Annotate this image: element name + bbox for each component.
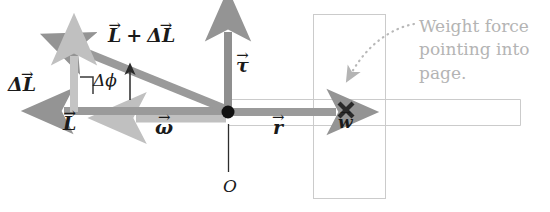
- vector-arrow-accent: →: [158, 109, 170, 125]
- vector-arrow-accent: →: [272, 109, 284, 125]
- label-L-plus-delta-L: L→+ΔL→: [108, 26, 175, 46]
- label-omega: ω→: [155, 118, 173, 138]
- vector-arrow-accent: →: [340, 106, 351, 120]
- annotation-pointer-icon: [352, 24, 414, 72]
- vector-arrow-accent: →: [64, 105, 76, 121]
- right-angle-marker: [80, 77, 93, 94]
- annotation-line-3: page.: [419, 62, 544, 85]
- weight-force-annotation: Weight force pointing into page.: [419, 15, 544, 85]
- label-tau: τ→: [236, 56, 249, 76]
- label-origin: O: [223, 178, 237, 196]
- label-plus-sign: +: [126, 24, 142, 46]
- vector-arrow-accent: →: [21, 66, 33, 82]
- annotation-line-1: Weight force: [419, 15, 544, 38]
- physics-diagram: L→+ΔL→ ΔL→ L→ Δϕ τ→ ω→ r→ w→ O Weight fo…: [0, 0, 550, 212]
- vector-arrow-accent: →: [160, 17, 172, 33]
- label-delta-phi: Δϕ: [93, 72, 117, 90]
- label-r: r→: [273, 118, 283, 138]
- vector-arrow-accent: →: [109, 17, 121, 33]
- vector-arrow-accent: →: [236, 47, 248, 63]
- pivot-dot: [222, 106, 235, 119]
- label-w: w→: [338, 114, 353, 132]
- label-delta-L: ΔL→: [8, 75, 36, 95]
- label-L: L→: [63, 114, 76, 134]
- annotation-line-2: pointing into: [419, 38, 544, 61]
